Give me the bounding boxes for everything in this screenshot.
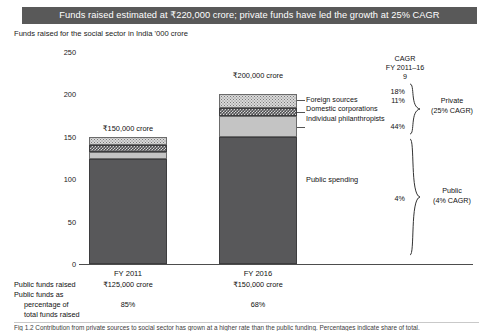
title-banner: Funds raised estimated at ₹220,000 crore… (22, 7, 477, 24)
leader-line-individual (297, 127, 305, 128)
bar-fy2011-segment-domestic-corporations (89, 145, 167, 152)
legend-label-foreign-sources: Foreign sources (306, 95, 358, 104)
bar-fy2011-segment-individual-philanthropists (89, 152, 167, 159)
y-tick-label-150: 150 (50, 133, 76, 142)
leader-line-foreign (297, 100, 305, 101)
y-tick-label-100: 100 (50, 175, 76, 184)
cagr-header-line2: FY 2011–16 (371, 63, 439, 72)
group-label-public-line1: Public (419, 186, 485, 195)
table-cell-fy2011-funds: ₹125,000 crore (89, 280, 167, 289)
table-row-label-pct-line1: Public funds as (14, 290, 64, 299)
x-category-label-fy2011: FY 2011 (89, 269, 167, 278)
page-title: Funds raised estimated at ₹220,000 crore… (22, 7, 477, 24)
footnote-divider (14, 322, 479, 323)
bar-fy2016-total-label: ₹200,000 crore (219, 71, 297, 80)
table-cell-fy2011-pct: 85% (89, 300, 167, 309)
bar-fy2016-segment-foreign-sources (219, 94, 297, 108)
leader-line-domestic (297, 112, 305, 113)
bar-fy2016-segment-public-spending (219, 137, 297, 264)
bar-fy2011-segment-public-spending (89, 159, 167, 264)
bar-fy2011-total-label: ₹150,000 crore (89, 124, 167, 133)
table-row-label-pct-line3: total funds raised (24, 310, 80, 319)
bar-fy2016-segment-individual-philanthropists (219, 116, 297, 137)
table-cell-fy2016-funds: ₹150,000 crore (219, 280, 297, 289)
group-label-private-line1: Private (419, 96, 485, 105)
y-tick-label-250: 250 (50, 48, 76, 57)
cagr-value-public-spending: 4% (383, 194, 405, 203)
figure-caption: Fig 1.2 Contribution from private source… (14, 324, 484, 331)
y-tick-label-50: 50 (50, 218, 76, 227)
table-cell-fy2016-pct: 68% (219, 300, 297, 309)
bar-fy2011-segment-foreign-sources (89, 137, 167, 145)
legend-label-domestic-corporations: Domestic corporations (306, 104, 378, 113)
cagr-header-line1: CAGR (378, 54, 432, 63)
table-row-label-pct-line2: percentage of (24, 300, 69, 309)
cagr-value-individual-philanthropists: 44% (383, 122, 405, 131)
cagr-header-value: 9 (378, 72, 432, 81)
table-row-label-public-funds-raised: Public funds raised (14, 280, 76, 289)
legend-label-public-spending: Public spending (306, 175, 358, 184)
bar-fy2016-segment-domestic-corporations (219, 108, 297, 116)
cagr-value-foreign-sources: 18% (383, 87, 405, 96)
chart-subtitle: Funds raised for the social sector in In… (14, 29, 188, 38)
group-label-private-line2: (25% CAGR) (419, 106, 485, 115)
bar-fy2016 (219, 94, 297, 264)
x-axis-baseline (79, 264, 473, 265)
y-tick-label-200: 200 (50, 90, 76, 99)
x-category-label-fy2016: FY 2016 (219, 269, 297, 278)
legend-label-individual-philanthropists: Individual philanthropists (306, 114, 385, 123)
group-label-public-line2: (4% CAGR) (419, 196, 485, 205)
bar-fy2011 (89, 137, 167, 264)
y-tick-label-0: 0 (50, 260, 76, 269)
cagr-value-domestic-corporations: 11% (383, 96, 405, 105)
